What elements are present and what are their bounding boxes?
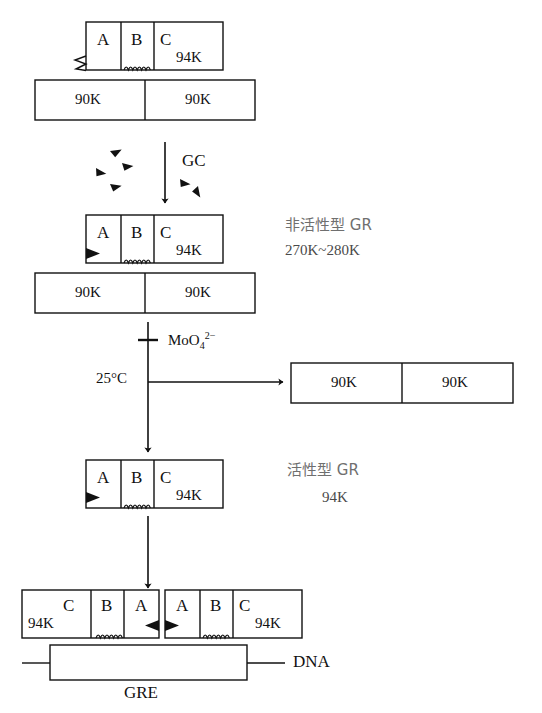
- coil-hinge-icon: [124, 505, 150, 508]
- active-gr-annotation-line1: 活性型 GR: [287, 463, 359, 478]
- released-chaperone-box-group: [291, 363, 513, 403]
- gc-ligand-label: GC: [182, 152, 206, 169]
- stage2-subunit-c-label: C: [160, 224, 171, 241]
- molybdate-formula-subscript: 4: [200, 340, 205, 351]
- active-gr-annotation-line2: 94K: [322, 490, 348, 505]
- stage1-chaperone-right-label: 90K: [185, 92, 211, 107]
- stage4-left-subunit-a-label: A: [135, 597, 147, 614]
- stage3-subunit-c-mass: 94K: [176, 488, 202, 503]
- stage2-subunit-a-label: A: [97, 224, 109, 241]
- stage2-chaperone-box-group: [35, 273, 255, 313]
- stage4-right-subunit-a-label: A: [176, 597, 188, 614]
- molybdate-inhibitor-label: MoO42−: [168, 331, 215, 351]
- stage4-right-subunit-c-label: C: [239, 597, 250, 614]
- stage4-left-subunit-c-label: C: [63, 597, 74, 614]
- stage3-subunit-c-label: C: [160, 469, 171, 486]
- gre-label: GRE: [124, 684, 158, 701]
- coil-hinge-icon: [96, 635, 122, 638]
- stage4-left-subunit-b-label: B: [101, 597, 112, 614]
- stage1-subunit-a-label: A: [97, 31, 109, 48]
- inactive-gr-annotation-line1: 非活性型 GR: [285, 218, 372, 233]
- stage1-subunit-c-label: C: [160, 31, 171, 48]
- stage1-chaperone-left-label: 90K: [75, 92, 101, 107]
- dna-label: DNA: [293, 653, 330, 670]
- filled-triangle-bound-icon: [86, 492, 100, 503]
- filled-triangle-bound-icon: [86, 248, 100, 259]
- molybdate-formula-charge: 2−: [205, 330, 216, 341]
- stage2-subunit-b-label: B: [131, 224, 142, 241]
- stage1-chaperone-box-group: [35, 80, 255, 120]
- molybdate-formula-base: MoO: [168, 332, 200, 348]
- stage2-subunit-c-mass: 94K: [176, 243, 202, 258]
- dna-strand-group: [22, 645, 285, 680]
- coil-hinge-icon: [124, 67, 150, 70]
- stage2-chaperone-left-label: 90K: [75, 285, 101, 300]
- temperature-label: 25°C: [96, 371, 127, 386]
- zigzag-open-site-icon: [75, 56, 86, 71]
- coil-hinge-icon: [124, 260, 150, 263]
- stage4-right-subunit-c-mass: 94K: [255, 616, 281, 631]
- inactive-gr-annotation-line2: 270K~280K: [285, 243, 360, 258]
- filled-triangle-bound-icon: [145, 620, 159, 631]
- stage3-subunit-b-label: B: [131, 469, 142, 486]
- stage3-subunit-a-label: A: [97, 469, 109, 486]
- filled-triangle-bound-icon: [165, 620, 179, 631]
- coil-hinge-icon: [203, 635, 229, 638]
- released-chaperone-right-label: 90K: [442, 375, 468, 390]
- stage1-subunit-c-mass: 94K: [176, 50, 202, 65]
- released-chaperone-left-label: 90K: [331, 375, 357, 390]
- diagram-canvas: A B C 94K 90K 90K GC A B C 94K 90K 90K 非…: [0, 0, 542, 713]
- stage4-left-subunit-c-mass: 94K: [28, 616, 54, 631]
- stage2-chaperone-right-label: 90K: [185, 285, 211, 300]
- stage4-right-subunit-b-label: B: [210, 597, 221, 614]
- stage1-subunit-b-label: B: [131, 31, 142, 48]
